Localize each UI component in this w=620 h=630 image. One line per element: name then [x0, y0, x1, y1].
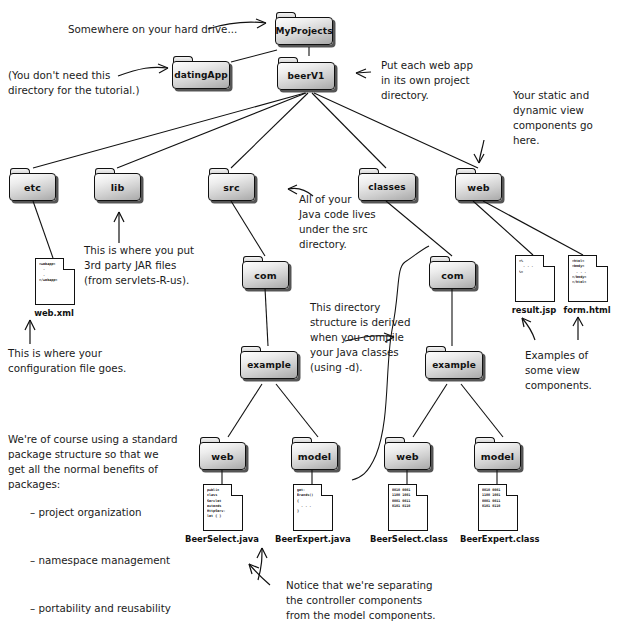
folder-label: example	[240, 351, 298, 379]
folder-src-web[interactable]: web	[199, 437, 246, 470]
diagram-canvas: MyProjects datingApp beerV1 etc lib src …	[0, 0, 620, 630]
folder-label: src	[208, 173, 255, 201]
folder-label: etc	[9, 173, 56, 201]
folder-datingapp[interactable]: datingApp	[172, 56, 230, 89]
folder-src[interactable]: src	[208, 168, 255, 201]
folder-classes-web[interactable]: web	[384, 437, 431, 470]
file-name: BeerExpert.java	[275, 534, 349, 544]
file-code-preview: public class Servlet extends HttpServ- l…	[207, 488, 232, 528]
file-name: form.html	[558, 305, 616, 315]
folder-web-top[interactable]: web	[455, 168, 502, 201]
note-config-file: This is where your configuration file go…	[8, 346, 126, 376]
folder-src-model[interactable]: model	[291, 437, 338, 470]
note-view-components-top: Your static and dynamic view components …	[513, 88, 620, 148]
file-code-preview: <html> <body> . . . </body> </html>	[572, 259, 597, 299]
file-sheet-icon: get- Brands() { . . . }	[293, 484, 333, 531]
file-corner-fold-icon	[416, 484, 428, 496]
folder-classes-example[interactable]: example	[425, 346, 483, 379]
file-sheet-icon: 0010 0001 1100 1001 0001 0011 0101 0110	[388, 484, 428, 531]
file-sheet-icon: 0010 0001 1100 1001 0001 0011 0101 0110	[478, 484, 518, 531]
note-view-examples: Examples of some view components.	[525, 348, 592, 393]
file-corner-fold-icon	[506, 484, 518, 496]
file-name: BeerExpert.class	[460, 534, 534, 544]
file-code-preview: 0010 0001 1100 1001 0001 0011 0101 0110	[482, 488, 507, 528]
file-code-preview: <% . . . %>	[519, 259, 544, 299]
folder-src-com[interactable]: com	[242, 256, 289, 289]
folder-label: beerV1	[277, 62, 335, 90]
folder-src-example[interactable]: example	[240, 346, 298, 379]
note-derived-structure: This directory structure is derived when…	[310, 300, 410, 375]
file-corner-fold-icon	[63, 258, 75, 270]
file-name: BeerSelect.java	[185, 534, 259, 544]
note-package-structure: We're of course using a standard package…	[8, 432, 178, 492]
file-beerexpert-java[interactable]: get- Brands() { . . . } BeerExpert.java	[293, 484, 349, 544]
folder-label: web	[455, 173, 502, 201]
note-separation: Notice that we're separating the control…	[286, 578, 436, 623]
folder-label: example	[425, 351, 483, 379]
folder-label: com	[242, 261, 289, 289]
file-name: BeerSelect.class	[370, 534, 444, 544]
folder-label: web	[199, 442, 246, 470]
folder-label: web	[384, 442, 431, 470]
folder-classes-com[interactable]: com	[429, 256, 476, 289]
file-sheet-icon: <% . . . %>	[515, 255, 555, 302]
file-form-html[interactable]: <html> <body> . . . </body> </html> form…	[568, 255, 616, 315]
file-name: result.jsp	[505, 305, 563, 315]
folder-classes-model[interactable]: model	[474, 437, 521, 470]
note-dating-app: (You don't need this directory for the t…	[8, 68, 139, 98]
file-name: web.xml	[25, 308, 83, 318]
file-sheet-icon: <html> <body> . . . </body> </html>	[568, 255, 608, 302]
file-sheet-icon: public class Servlet extends HttpServ- l…	[203, 484, 243, 531]
note-per-project: Put each web app in its own project dire…	[381, 58, 473, 103]
folder-label: MyProjects	[275, 17, 333, 45]
file-corner-fold-icon	[596, 255, 608, 267]
file-corner-fold-icon	[543, 255, 555, 267]
file-beerexpert-class[interactable]: 0010 0001 1100 1001 0001 0011 0101 0110 …	[478, 484, 534, 544]
folder-label: com	[429, 261, 476, 289]
folder-label: datingApp	[172, 61, 230, 89]
file-code-preview: get- Brands() { . . . }	[297, 488, 322, 528]
note-jar-files: This is where you put 3rd party JAR file…	[84, 243, 194, 288]
folder-myprojects[interactable]: MyProjects	[275, 12, 333, 45]
note-java-code: All of your Java code lives under the sr…	[299, 192, 376, 252]
file-result-jsp[interactable]: <% . . . %> result.jsp	[515, 255, 563, 315]
file-beerselect-java[interactable]: public class Servlet extends HttpServ- l…	[203, 484, 259, 544]
file-corner-fold-icon	[321, 484, 333, 496]
file-corner-fold-icon	[231, 484, 243, 496]
note-hard-drive: Somewhere on your hard drive...	[68, 22, 237, 37]
note-package-bullets: – project organization – namespace manag…	[30, 500, 171, 620]
folder-label: model	[291, 442, 338, 470]
file-sheet-icon: <webapp> . . </webapp>	[35, 258, 75, 305]
folder-etc[interactable]: etc	[9, 168, 56, 201]
file-web-xml[interactable]: <webapp> . . </webapp> web.xml	[35, 258, 83, 318]
file-beerselect-class[interactable]: 0010 0001 1100 1001 0001 0011 0101 0110 …	[388, 484, 444, 544]
file-code-preview: 0010 0001 1100 1001 0001 0011 0101 0110	[392, 488, 417, 528]
folder-label: lib	[94, 173, 141, 201]
folder-label: model	[474, 442, 521, 470]
folder-lib[interactable]: lib	[94, 168, 141, 201]
file-code-preview: <webapp> . . </webapp>	[39, 262, 64, 302]
folder-beerv1[interactable]: beerV1	[277, 57, 335, 90]
